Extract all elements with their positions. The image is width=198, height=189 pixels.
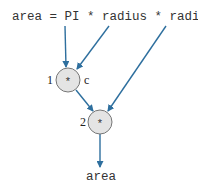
arrow-radius2-to-node2 <box>108 26 166 111</box>
diagram-graphics: * * <box>0 0 198 189</box>
code-statement: area = PI * radius * radius; <box>12 10 198 24</box>
arrow-pi-to-node1 <box>65 26 66 67</box>
multiply-icon: * <box>66 75 71 87</box>
node-2: * <box>88 110 112 134</box>
multiply-icon: * <box>98 117 103 129</box>
arrow-radius1-to-node1 <box>77 26 109 69</box>
node-1-tag: c <box>84 73 89 88</box>
node-1: * <box>56 68 80 92</box>
output-label: area <box>86 170 116 184</box>
node-1-number: 1 <box>47 73 53 88</box>
node-2-number: 2 <box>80 115 86 130</box>
expression-tree-diagram: * * area = PI * radius * radius; 1 c 2 a… <box>0 0 198 189</box>
arrow-node1-to-node2 <box>76 90 93 111</box>
